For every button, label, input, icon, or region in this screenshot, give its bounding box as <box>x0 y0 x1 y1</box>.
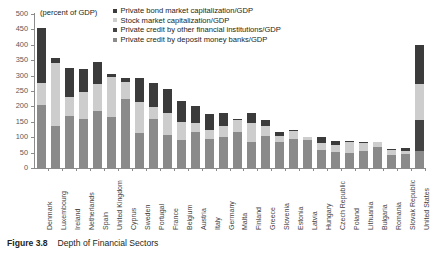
x-axis-label: Luxembourg <box>59 191 68 230</box>
bar-column[interactable] <box>415 45 424 169</box>
bar-segment-stock_market <box>177 122 186 140</box>
x-axis-label: Slovak Republic <box>408 180 417 230</box>
x-axis-label: Austria <box>199 208 208 230</box>
x-axis-tick-mark <box>174 168 175 171</box>
bar-segment-deposit_banks <box>51 126 60 168</box>
x-axis-label: Denmark <box>45 202 54 230</box>
bar-segment-deposit_banks <box>65 116 74 168</box>
x-axis-label: Finland <box>254 207 263 230</box>
y-axis-tick-label: 450 <box>0 25 28 32</box>
bar-segment-stock_market <box>149 107 158 118</box>
bar-column[interactable] <box>65 68 74 168</box>
bar-column[interactable] <box>149 83 158 168</box>
bar-segment-deposit_banks <box>149 119 158 168</box>
figure-container: 050100150200250300350400450500 (percent … <box>0 0 435 260</box>
bar-column[interactable] <box>261 120 270 168</box>
x-axis-label: Greece <box>268 207 277 230</box>
bar-column[interactable] <box>303 137 312 168</box>
x-axis-tick-mark <box>271 168 272 171</box>
x-axis-tick-mark <box>341 168 342 171</box>
bar-segment-private_bond <box>65 68 74 97</box>
x-axis-tick-mark <box>243 168 244 171</box>
bar-segment-deposit_banks <box>163 135 172 168</box>
x-axis-label: Bulgaria <box>380 204 389 230</box>
bar-segment-private_bond <box>415 45 424 84</box>
bar-segment-deposit_banks <box>359 151 368 168</box>
bar-segment-deposit_banks <box>373 147 382 168</box>
bar-segment-deposit_banks <box>247 142 256 168</box>
bar-segment-stock_market <box>37 83 46 105</box>
bar-segment-deposit_banks <box>135 133 144 168</box>
bar-column[interactable] <box>51 58 60 168</box>
x-axis-tick-mark <box>230 168 231 171</box>
bar-segment-deposit_banks <box>93 111 102 168</box>
figure-title: Depth of Financial Sectors <box>58 238 159 248</box>
bar-column[interactable] <box>205 114 214 169</box>
bar-segment-deposit_banks <box>205 139 214 168</box>
bar-column[interactable] <box>37 28 46 168</box>
bar-column[interactable] <box>233 119 242 168</box>
bar-segment-deposit_banks <box>289 139 298 168</box>
y-axis-tick-label: 500 <box>0 10 28 17</box>
x-axis-tick-mark <box>202 168 203 171</box>
bar-column[interactable] <box>345 141 354 168</box>
bar-column[interactable] <box>275 132 284 168</box>
bar-column[interactable] <box>121 78 130 168</box>
bar-segment-deposit_banks <box>415 151 424 168</box>
bar-column[interactable] <box>107 74 116 168</box>
bar-segment-stock_market <box>359 143 368 151</box>
y-axis-tick-label: 150 <box>0 118 28 125</box>
x-axis-tick-mark <box>76 168 77 171</box>
bar-column[interactable] <box>317 137 326 168</box>
x-axis-label: Czech Republic <box>338 181 347 230</box>
bar-column[interactable] <box>401 148 410 168</box>
bar-column[interactable] <box>177 101 186 168</box>
bar-segment-deposit_banks <box>387 155 396 168</box>
y-axis-ticks: 050100150200250300350400450500 <box>0 0 34 260</box>
bar-segment-stock_market <box>289 131 298 139</box>
x-axis-label: France <box>171 208 180 230</box>
x-axis-tick-mark <box>355 168 356 171</box>
bar-column[interactable] <box>163 89 172 168</box>
bar-segment-deposit_banks <box>401 154 410 168</box>
bar-segment-stock_market <box>331 145 340 152</box>
bar-column[interactable] <box>373 142 382 168</box>
bar-column[interactable] <box>191 106 200 168</box>
x-axis-labels: DenmarkLuxembourgIrelandNetherlandsSpain… <box>34 172 425 232</box>
x-axis-tick-mark <box>104 168 105 171</box>
bar-segment-stock_market <box>65 97 74 115</box>
bar-segment-private_bond <box>149 83 158 107</box>
x-axis-tick-mark <box>48 168 49 171</box>
x-axis-label: United States <box>422 188 431 230</box>
bar-column[interactable] <box>219 113 228 168</box>
bar-column[interactable] <box>289 130 298 168</box>
bar-column[interactable] <box>247 113 256 168</box>
x-axis-tick-mark <box>188 168 189 171</box>
y-axis-tick-mark <box>31 168 34 169</box>
bar-segment-deposit_banks <box>79 119 88 168</box>
y-axis-tick-label: 250 <box>0 87 28 94</box>
bar-column[interactable] <box>331 141 340 168</box>
legend-swatch-icon <box>113 9 117 13</box>
bar-segment-deposit_banks <box>107 117 116 168</box>
x-axis-label: Malta <box>240 213 249 230</box>
x-axis-label: Poland <box>352 208 361 230</box>
x-axis-tick-mark <box>397 168 398 171</box>
y-axis-tick-label: 50 <box>0 149 28 156</box>
x-axis-tick-mark <box>90 168 91 171</box>
bar-column[interactable] <box>135 78 144 168</box>
bar-segment-stock_market <box>107 77 116 117</box>
bar-column[interactable] <box>79 69 88 168</box>
bar-column[interactable] <box>93 62 102 168</box>
x-axis-tick-mark <box>299 168 300 171</box>
bar-column[interactable] <box>359 142 368 168</box>
x-axis-tick-mark <box>327 168 328 171</box>
bar-segment-private_bond <box>163 89 172 114</box>
bar-segment-stock_market <box>317 143 326 150</box>
bar-segment-private_bond <box>93 62 102 84</box>
bar-column[interactable] <box>387 149 396 168</box>
bar-segment-private_bond <box>205 114 214 130</box>
bar-segment-stock_market <box>415 84 424 120</box>
bar-segment-deposit_banks <box>261 136 270 168</box>
bar-segment-stock_market <box>261 126 270 135</box>
